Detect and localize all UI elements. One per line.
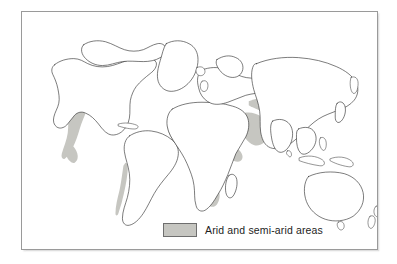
region-madagascar (225, 174, 237, 198)
region-british-isles (200, 81, 208, 92)
continent-north-america (52, 57, 157, 135)
region-sri-lanka (286, 151, 291, 157)
world-map-graphic (22, 12, 377, 249)
continent-australia (304, 172, 363, 221)
continent-south-america (122, 131, 178, 226)
legend-label: Arid and semi-arid areas (205, 225, 323, 236)
region-kamchatka (350, 77, 358, 94)
map-frame (21, 11, 378, 250)
region-tasmania (337, 221, 344, 230)
region-new-zealand-north (374, 206, 377, 217)
region-new-zealand-south (368, 216, 375, 229)
region-indonesia (299, 156, 324, 166)
legend-swatch-icon (163, 223, 197, 237)
arid-region-mexico (65, 144, 78, 163)
region-iceland (196, 67, 205, 76)
region-japan (335, 102, 345, 123)
region-new-guinea (330, 157, 353, 167)
region-southeast-asia (296, 127, 316, 154)
region-philippines (319, 137, 326, 150)
figure-container: Arid and semi-arid areas (0, 0, 397, 264)
map-legend: Arid and semi-arid areas (163, 223, 323, 237)
